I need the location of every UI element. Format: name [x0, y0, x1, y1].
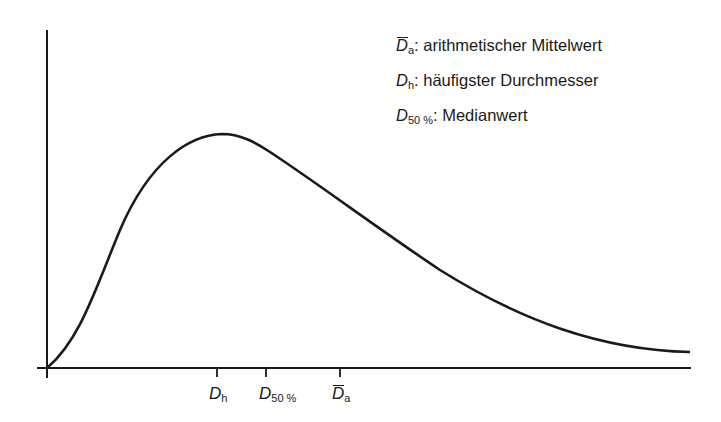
- legend-separator: :: [414, 36, 419, 54]
- legend-description: arithmetischer Mittelwert: [423, 36, 602, 54]
- marker-symbol: D: [259, 384, 271, 403]
- marker-symbol: D: [209, 384, 221, 403]
- tick-label-median: D50 %: [259, 384, 296, 404]
- tick-label-mean: Da: [332, 384, 350, 404]
- legend-item-mode: Dh: häufigster Durchmesser: [396, 65, 602, 100]
- legend-symbol: D: [396, 71, 408, 89]
- marker-symbol: D: [332, 384, 344, 403]
- legend-item-mean: Da: arithmetischer Mittelwert: [396, 30, 602, 65]
- legend-subscript: 50 %: [408, 114, 433, 126]
- marker-subscript: 50 %: [271, 392, 296, 404]
- legend-symbol: D: [396, 36, 408, 54]
- marker-subscript: h: [221, 392, 227, 404]
- legend: Da: arithmetischer Mittelwert Dh: häufig…: [396, 30, 602, 135]
- tick-label-mode: Dh: [209, 384, 227, 404]
- legend-description: Medianwert: [442, 106, 527, 124]
- legend-item-median: D50 %: Medianwert: [396, 100, 602, 135]
- legend-separator: :: [433, 106, 438, 124]
- legend-symbol: D: [396, 106, 408, 124]
- legend-separator: :: [414, 71, 419, 89]
- distribution-diagram: [0, 0, 721, 422]
- marker-subscript: a: [344, 392, 350, 404]
- legend-description: häufigster Durchmesser: [423, 71, 598, 89]
- distribution-curve: [47, 134, 690, 368]
